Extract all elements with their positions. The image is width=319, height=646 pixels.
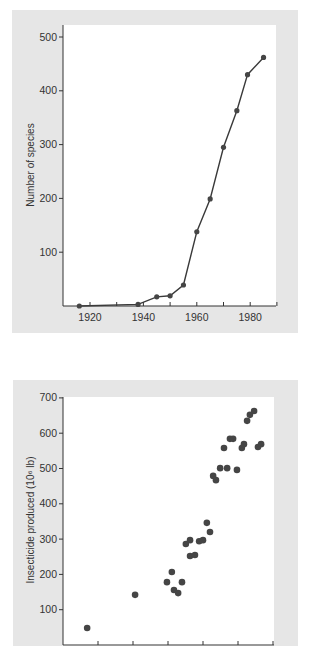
scatter-point (207, 529, 214, 536)
y-tick-label: 700 (39, 391, 57, 403)
scatter-point (132, 592, 139, 599)
bottom-chart: 100200300400500600700Insecticide produce… (0, 0, 319, 646)
scatter-point (204, 520, 211, 527)
scatter-point (192, 552, 199, 559)
scatter-point (224, 465, 231, 472)
scatter-point (175, 590, 182, 597)
scatter-point (187, 537, 194, 544)
scatter-point (164, 579, 171, 586)
y-tick-label: 400 (39, 497, 57, 509)
scatter-point (84, 625, 91, 632)
y-tick-label: 200 (39, 568, 57, 580)
scatter-point (244, 418, 251, 425)
y-tick-label: 600 (39, 427, 57, 439)
y-tick-label: 100 (39, 603, 57, 615)
scatter-point (200, 537, 207, 544)
y-axis-title: Insecticide produced (10⁶ lb) (25, 457, 36, 584)
scatter-point (179, 579, 186, 586)
scatter-point (234, 467, 241, 474)
scatter-point (221, 445, 228, 452)
scatter-point (169, 569, 176, 576)
scatter-point (258, 441, 265, 448)
y-tick-label: 300 (39, 533, 57, 545)
scatter-point (251, 408, 258, 415)
y-tick-label: 500 (39, 462, 57, 474)
scatter-point (213, 477, 220, 484)
scatter-point (230, 436, 237, 443)
scatter-point (217, 465, 224, 472)
scatter-point (241, 441, 248, 448)
